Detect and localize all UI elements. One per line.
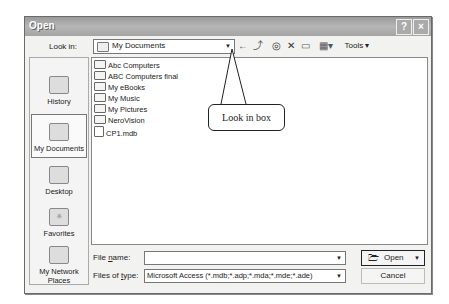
- open-dialog: Open ? × Look in: My Documents ▼ ← ⤴ ◎ ✕…: [24, 16, 432, 294]
- cancel-button[interactable]: Cancel: [361, 268, 425, 284]
- file-name-label: File name:: [93, 253, 130, 262]
- chevron-down-icon[interactable]: ▼: [334, 271, 344, 281]
- file-type-label: Files of type:: [93, 271, 138, 280]
- file-type-dropdown[interactable]: Microsoft Access (*.mdb;*.adp;*.mda;*.md…: [144, 269, 346, 283]
- file-name-input[interactable]: ▼: [144, 251, 346, 265]
- chevron-down-icon[interactable]: ▼: [334, 253, 344, 263]
- look-in-callout: Look in box: [208, 104, 285, 131]
- open-folder-icon: 🗁: [368, 251, 379, 265]
- open-button[interactable]: 🗁 Open ▼: [361, 250, 425, 266]
- chevron-down-icon[interactable]: ▼: [414, 251, 420, 265]
